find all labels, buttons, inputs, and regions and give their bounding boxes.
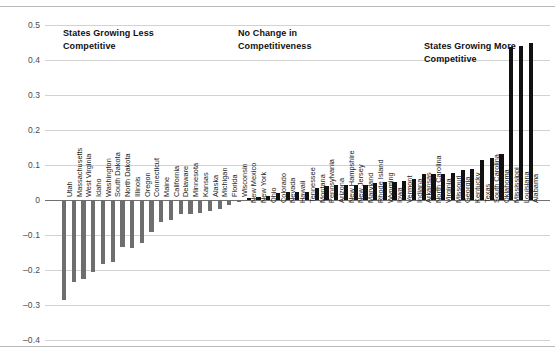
bar-florida	[227, 200, 231, 205]
annotation-no-change: No Change in Competitiveness	[238, 27, 312, 52]
bar-california	[169, 200, 173, 220]
category-label-kentucky: Kentucky	[474, 173, 481, 203]
bar-oregon	[140, 200, 144, 243]
category-label-kansas: Kansas	[202, 172, 209, 197]
bottom-divider-rule	[0, 346, 555, 347]
y-tick-label: –0.3	[23, 300, 40, 310]
bar-delaware	[179, 200, 183, 214]
bar-minnesota	[188, 200, 192, 214]
category-label-north-carolina: North Carolina	[435, 155, 442, 203]
gridline-neg0p2	[45, 270, 550, 271]
category-label-new-jersey: New Jersey	[357, 164, 364, 203]
annotation-less-competitive: States Growing Less Competitive	[63, 27, 154, 52]
category-label-oregon: Oregon	[144, 172, 151, 197]
category-label-pennsylvania: Pennsylvania	[328, 159, 335, 203]
y-tick-label: 0	[35, 195, 40, 205]
category-label-new-mexico: New Mexico	[250, 163, 257, 203]
y-tick-label: –0.2	[23, 265, 40, 275]
category-label-new-york: New York	[260, 172, 267, 203]
category-label-nevada: Nevada	[289, 178, 296, 203]
category-label-new-hampshire: New Hampshire	[348, 150, 355, 203]
bar-utah	[62, 200, 66, 300]
category-label-south-carolina: South Carolina	[493, 154, 500, 203]
category-label-minnesota: Minnesota	[192, 163, 199, 197]
bar-kansas	[198, 200, 202, 213]
category-label-massachusetts: Massachusetts	[76, 148, 83, 197]
annotation-more-competitive: States Growing More Competitive	[424, 40, 516, 65]
category-label-california: California	[173, 166, 180, 197]
category-label-michigan: Michigan	[221, 167, 228, 197]
category-label-illinois: Illinois	[134, 176, 141, 197]
category-label-oklahoma: Oklahoma	[503, 169, 510, 203]
category-label-washington: Washington	[105, 158, 112, 197]
category-label-utah: Utah	[66, 181, 73, 197]
bar-illinois	[130, 200, 134, 248]
category-label-florida: Florida	[231, 174, 238, 197]
category-label-west-virginia: West Virginia	[85, 154, 92, 197]
bar-wisconsin	[237, 200, 241, 202]
gridline-0p3	[45, 95, 550, 96]
category-label-iowa: Iowa	[396, 187, 403, 203]
category-label-indiana: Indiana	[416, 179, 423, 203]
category-label-maryland: Maryland	[367, 173, 374, 203]
bar-north-dakota	[120, 200, 124, 247]
category-label-wisconsin: Wisconsin	[241, 163, 248, 197]
gridline-0p5	[45, 25, 550, 26]
y-tick-label: 0.2	[28, 125, 40, 135]
chart-canvas: 0.50.40.30.20.10–0.1–0.2–0.3–0.4 UtahMas…	[0, 0, 555, 353]
category-label-north-dakota: North Dakota	[124, 153, 131, 197]
category-label-montana: Montana	[319, 174, 326, 203]
gridline-neg0p3	[45, 305, 550, 306]
bar-west-virginia	[81, 200, 85, 279]
category-label-hawaii: Hawaii	[299, 181, 306, 203]
bar-maine	[159, 200, 163, 222]
y-tick-label: 0.4	[28, 55, 40, 65]
category-label-connecticut: Connecticut	[153, 158, 160, 197]
y-tick-label: 0.5	[28, 20, 40, 30]
category-label-virginia: Virginia	[445, 178, 452, 203]
category-label-mississippi: Mississippi	[513, 167, 520, 203]
bar-alaska	[208, 200, 212, 211]
category-label-louisiana: Louisiana	[523, 171, 530, 203]
top-divider-rule	[0, 6, 555, 7]
gridline-0p2	[45, 130, 550, 131]
category-label-south-dakota: South Dakota	[114, 152, 121, 197]
category-label-alaska: Alaska	[212, 175, 219, 197]
category-label-alabama: Alabama	[532, 174, 539, 203]
category-label-tennessee: Tennessee	[309, 167, 316, 203]
category-label-georgia: Georgia	[464, 177, 471, 203]
bar-michigan	[218, 200, 222, 209]
category-label-wyoming: Wyoming	[387, 172, 394, 203]
category-label-arkansas: Arkansas	[425, 172, 432, 203]
gridline-neg0p4	[45, 340, 550, 341]
y-tick-label: 0.1	[28, 160, 40, 170]
category-label-colorado: Colorado	[280, 173, 287, 203]
category-label-delaware: Delaware	[182, 166, 189, 197]
bar-south-dakota	[111, 200, 115, 262]
bar-idaho	[91, 200, 95, 272]
category-label-maine: Maine	[163, 177, 170, 197]
bar-washington	[101, 200, 105, 264]
category-label-texas: Texas	[484, 184, 491, 203]
category-label-vermont: Vermont	[406, 175, 413, 203]
category-label-rhode-island: Rhode Island	[377, 159, 384, 203]
category-label-arizona: Arizona	[338, 178, 345, 203]
category-label-missouri: Missouri	[455, 175, 462, 203]
bar-massachusetts	[72, 200, 76, 282]
category-label-ohio: Ohio	[270, 187, 277, 203]
y-tick-label: –0.1	[23, 230, 40, 240]
y-tick-label: 0.3	[28, 90, 40, 100]
bar-connecticut	[149, 200, 153, 232]
category-label-idaho: Idaho	[95, 179, 102, 198]
y-tick-label: –0.4	[23, 335, 40, 345]
